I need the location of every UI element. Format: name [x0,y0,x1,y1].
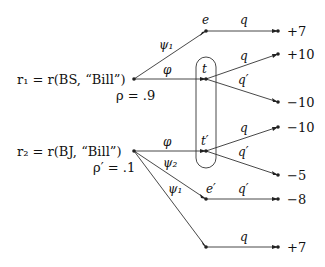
node-r2 [132,149,136,153]
arrowhead-icon [272,54,278,58]
edge-label-psi1: ψ₁ [168,182,182,196]
root-prob-r2: ρ′ = .1 [93,160,135,175]
edge-label-q: q [240,121,248,135]
payoff-value: −8 [287,192,306,207]
edge-label-q: q [240,13,248,27]
payoff-value: −10 [287,95,314,110]
game-tree-diagram: r₁ = r(BS, “Bill”) ρ = .9 r₂ = r(BJ, “Bi… [0,0,325,267]
edge-label-psi1: ψ₁ [159,38,173,52]
payoff-value: −5 [287,168,306,183]
edge-label-qprime: q′ [238,73,249,87]
node-label-e: e [202,13,209,27]
edge-label-qprime: q′ [238,145,249,159]
payoff-value: +7 [287,24,306,39]
payoff-value: +7 [287,240,306,255]
node-label-eprime: e′ [206,182,216,196]
root-label-r1: r₁ = r(BS, “Bill”) [17,72,126,87]
root-prob-r1: ρ = .9 [116,88,155,103]
edge-label-psi2: ψ₂ [163,156,177,170]
edge-label-phi: φ [163,63,172,77]
payoff-value: +10 [287,47,314,62]
node-label-t: t [202,62,207,76]
edge-label-qprime: q′ [238,182,249,196]
edge-label-phi: φ [163,135,172,149]
arrowhead-icon [272,127,278,131]
node-label-tprime: t′ [201,134,209,148]
node-r1 [132,77,136,81]
edge-label-q: q [240,49,248,63]
root-label-r2: r₂ = r(BJ, “Bill”) [17,144,122,159]
payoff-value: −10 [287,120,314,135]
edge-label-q: q [240,230,248,244]
